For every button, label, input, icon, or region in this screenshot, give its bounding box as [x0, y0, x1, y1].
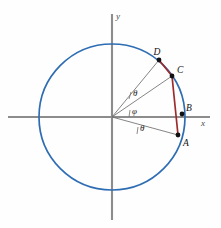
figure-canvas: A B C D θ φ θ x y: [0, 0, 221, 228]
radius-to-c: [112, 76, 172, 117]
radius-to-a: [112, 117, 178, 135]
angle-label-theta-upper: θ: [133, 88, 138, 98]
point-label-a: A: [182, 138, 189, 148]
x-axis-label: x: [200, 118, 205, 128]
point-dot-c: [170, 74, 175, 79]
point-label-c: C: [177, 65, 184, 75]
y-axis-label: y: [115, 11, 120, 21]
point-label-d: D: [153, 47, 161, 57]
angle-tick-theta-lower: [137, 127, 138, 134]
chord-d-c-a: [159, 60, 178, 135]
geometry-figure: A B C D θ φ θ x y: [0, 0, 221, 228]
point-dot-a: [176, 133, 181, 138]
point-dot-b: [180, 112, 185, 117]
point-dot-d: [157, 58, 162, 63]
angle-label-theta-lower: θ: [140, 123, 145, 133]
angle-label-phi: φ: [132, 106, 137, 116]
point-label-b: B: [186, 103, 192, 113]
